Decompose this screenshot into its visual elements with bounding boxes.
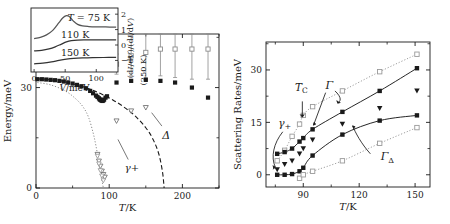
inset-xlabel: V/meV [60, 83, 90, 93]
data-marker [274, 167, 280, 172]
data-marker [129, 79, 133, 83]
data-marker [310, 153, 314, 157]
data-marker [275, 152, 279, 156]
data-marker [377, 118, 381, 122]
data-marker [310, 169, 314, 173]
gammaplus-leader [118, 139, 128, 159]
annotation-delta: Δ [161, 129, 170, 142]
x-tick-label: 0 [33, 191, 39, 201]
data-marker [414, 89, 420, 94]
y-tick-label: 30 [21, 83, 33, 93]
data-marker [377, 106, 383, 111]
data-marker [415, 113, 419, 117]
data-marker [105, 94, 109, 98]
right-ylabel: Scattering Rates/meV [232, 58, 243, 170]
x-tick-label: 90 [298, 190, 310, 200]
inset-ylabel-part2: (250 K) [138, 55, 148, 86]
data-marker [282, 162, 288, 167]
gamma-plus-lower-triangles [95, 154, 105, 182]
data-marker [415, 52, 419, 56]
series-points-Gamma-filled-squares-black [275, 66, 419, 156]
y-tick-label: 2 [121, 10, 126, 19]
series-line-Gamma-Delta-open-squares-gray [300, 128, 417, 179]
series-points-gamma-plus-filled-triangles [274, 89, 419, 173]
data-marker [290, 134, 294, 138]
annotation-Gamma: Γ [325, 79, 334, 92]
right-plot-frame [266, 42, 430, 187]
x-tick-label: 200 [174, 191, 191, 201]
data-marker [415, 66, 419, 70]
data-marker [282, 150, 286, 154]
right-panel: 9012015001530T/KScattering Rates/meVTCΓΓ… [232, 42, 430, 212]
data-marker [415, 125, 419, 129]
data-marker [297, 151, 303, 156]
data-marker [206, 47, 210, 51]
main-annotations: Δγ+ [118, 113, 170, 173]
main-ylabel: Energy/meV [2, 79, 13, 142]
figure-root: 0100200030T/KEnergy/meVΔγ+050100210−1V/m… [0, 0, 450, 224]
data-marker [206, 96, 210, 100]
data-marker [95, 154, 100, 158]
delta-leader [152, 113, 162, 126]
series-points-Gamma-open-squares-gray [275, 52, 419, 163]
inset-ylabel-part1: (dI/dV)/(dI/dV) [125, 18, 135, 78]
data-marker [129, 109, 134, 114]
data-marker [340, 110, 344, 114]
data-marker [158, 79, 162, 83]
data-marker [290, 146, 294, 150]
y-tick-label: 15 [251, 118, 263, 128]
inset-label-110K: 110 K [61, 29, 90, 40]
data-marker [301, 166, 305, 170]
data-marker [190, 47, 194, 51]
data-marker [301, 136, 305, 140]
data-marker [340, 89, 344, 93]
data-marker [301, 146, 307, 151]
series-line-Gamma-open-squares-gray [277, 54, 417, 161]
annotation-gamma-plus: γ+ [278, 117, 291, 131]
annotation-Gamma-Delta: ΓΔ [380, 150, 395, 164]
y-tick-label: 0 [256, 170, 262, 180]
data-marker [173, 80, 177, 84]
annotation-gamma-plus: γ+ [125, 162, 139, 173]
x-tick-label: 150 [406, 190, 423, 200]
data-marker [340, 122, 346, 127]
data-marker [143, 106, 148, 111]
data-marker [190, 85, 194, 89]
data-marker [377, 70, 381, 74]
data-marker [340, 132, 344, 136]
data-marker [310, 137, 316, 142]
right-annotations: TCΓΓΔγ+ [273, 79, 395, 170]
data-marker [377, 89, 381, 93]
inset-label-75K: T = 75 K [68, 12, 111, 23]
x-tick-label: 100 [101, 191, 118, 201]
main-xlabel: T/K [119, 202, 137, 213]
data-marker [289, 158, 295, 163]
data-marker [101, 179, 106, 183]
y-tick-label: 30 [251, 65, 263, 75]
data-marker [49, 78, 53, 82]
data-marker [275, 173, 279, 177]
scientific-figure: 0100200030T/KEnergy/meVΔγ+050100210−1V/m… [0, 0, 450, 224]
series-curve-gamma-plus-dotted-fit [37, 83, 103, 188]
inset-label-150K: 150 K [61, 47, 90, 58]
x-tick-label: 120 [351, 190, 368, 200]
x-tick-label: 0 [32, 74, 37, 83]
data-marker [173, 47, 177, 51]
right-xlabel: T/K [339, 201, 357, 212]
data-marker [158, 47, 162, 51]
x-tick-label: 50 [60, 74, 70, 83]
data-marker [114, 80, 118, 84]
data-marker [377, 141, 381, 145]
data-marker [301, 173, 305, 177]
data-marker [144, 50, 148, 54]
annotation-Tc: TC [295, 81, 308, 95]
data-marker [40, 77, 44, 81]
right-data [274, 52, 419, 180]
data-marker [275, 159, 279, 163]
data-marker [297, 122, 301, 126]
data-marker [310, 104, 314, 108]
data-marker [282, 173, 286, 177]
data-marker [44, 77, 48, 81]
data-marker [53, 78, 57, 82]
data-marker [290, 172, 294, 176]
